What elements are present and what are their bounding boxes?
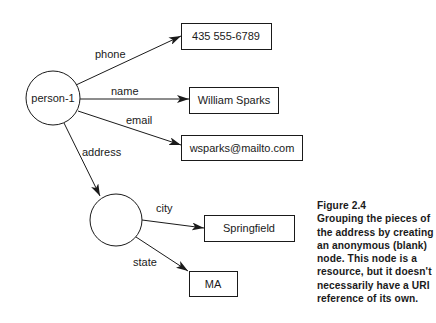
node-label-email: wsparks@mailto.com bbox=[189, 142, 295, 154]
node-label-name: William Sparks bbox=[198, 94, 271, 106]
edge-email: email bbox=[78, 111, 181, 145]
edge-label-phone: phone bbox=[95, 48, 126, 60]
figure-caption: Figure 2.4 Grouping the pieces of the ad… bbox=[317, 199, 435, 305]
node-person: person-1 bbox=[26, 71, 80, 125]
node-blank bbox=[90, 194, 142, 246]
node-state: MA bbox=[190, 272, 238, 297]
node-city: Springfield bbox=[205, 216, 295, 242]
edge-label-email: email bbox=[126, 114, 152, 126]
edge-label-state: state bbox=[133, 256, 157, 268]
node-email: wsparks@mailto.com bbox=[182, 136, 303, 161]
caption-line: node. This node is a bbox=[317, 252, 435, 265]
node-label-person: person-1 bbox=[31, 92, 74, 104]
edge-city: city bbox=[142, 202, 204, 228]
caption-line: Grouping the pieces of bbox=[317, 212, 435, 225]
node-name: William Sparks bbox=[190, 88, 279, 114]
node-label-city: Springfield bbox=[223, 222, 275, 234]
node-phone: 435 555-6789 bbox=[182, 24, 272, 50]
edge-label-name: name bbox=[111, 85, 139, 97]
caption-line: resource, but it doesn't bbox=[317, 265, 435, 278]
edge-label-address: address bbox=[82, 146, 122, 158]
edge-label-city: city bbox=[156, 202, 173, 214]
caption-title: Figure 2.4 bbox=[317, 199, 435, 212]
caption-line: an anonymous (blank) bbox=[317, 239, 435, 252]
caption-line: the address by creating bbox=[317, 226, 435, 239]
edge-name: name bbox=[80, 85, 189, 99]
edge-state: state bbox=[133, 237, 188, 271]
caption-line: necessarily have a URI bbox=[317, 279, 435, 292]
caption-line: reference of its own. bbox=[317, 292, 435, 305]
edge-phone: phone bbox=[76, 36, 181, 85]
node-label-state: MA bbox=[205, 278, 222, 290]
edge-address: address bbox=[64, 123, 122, 196]
node-label-phone: 435 555-6789 bbox=[192, 30, 260, 42]
